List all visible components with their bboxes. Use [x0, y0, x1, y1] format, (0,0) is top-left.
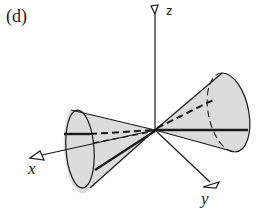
- y-axis-label: y: [201, 190, 209, 207]
- z-axis-label: z: [166, 4, 173, 17]
- z-arrowhead-icon: [151, 5, 158, 14]
- y-arrowhead-icon: [203, 182, 219, 188]
- z-axis: [151, 5, 158, 130]
- cone-drawing: [0, 0, 257, 218]
- double-cone-diagram: (d): [0, 0, 257, 218]
- x-axis-label: x: [28, 160, 36, 177]
- left-cone: [63, 109, 155, 193]
- right-cone: [155, 73, 250, 152]
